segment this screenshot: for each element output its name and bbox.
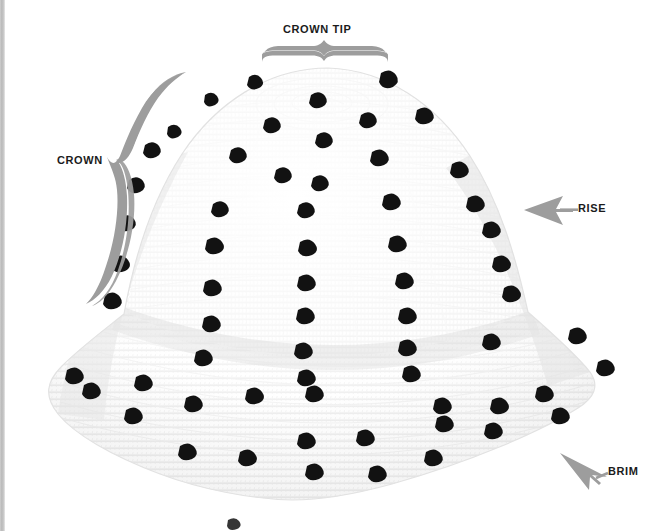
brim-arrow [560, 453, 608, 490]
label-rise: RISE [578, 203, 606, 214]
crown-tip-brace [262, 40, 388, 63]
label-brim: BRIM [608, 466, 639, 477]
rise-arrow [524, 196, 578, 225]
label-crown-tip: CROWN TIP [283, 24, 351, 35]
crown-brace [86, 72, 186, 306]
page-edge-strip [0, 0, 5, 531]
label-crown: CROWN [57, 155, 103, 166]
figure-canvas: CROWN TIP CROWN RISE BRIM [0, 0, 656, 531]
